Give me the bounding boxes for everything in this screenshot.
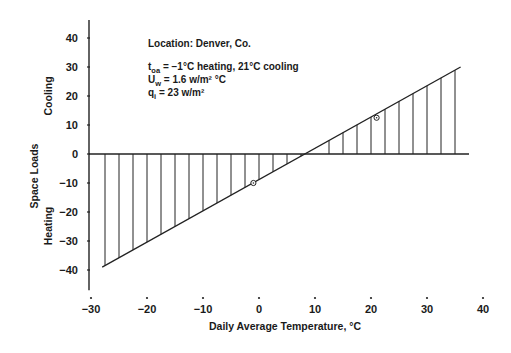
space-load-chart: 403020100−10−20−30−40 −30−20−10010203040… [0,0,511,353]
x-axis-ticks: −30−20−10010203040 [82,297,489,315]
x-tick-dot [314,297,316,299]
y-axis-label: Space Loads [28,143,40,208]
y-axis-ticks: 403020100−10−20−30−40 [59,32,90,276]
x-tick-label: −20 [138,303,157,315]
x-tick-dot [426,297,428,299]
x-tick-label: 40 [477,303,489,315]
qi-note: qi = 23 w/m² [148,87,205,101]
y-tick-label: −10 [59,177,78,189]
y-tick-label: −40 [59,264,78,276]
annotation-block: Location: Denver, Co. toa = −1°C heating… [148,38,299,101]
x-tick-label: 30 [421,303,433,315]
balance-point-dot [376,117,378,119]
y-tick-label: −20 [59,206,78,218]
location-note: Location: Denver, Co. [148,38,251,49]
y-tick-label: −30 [59,235,78,247]
x-tick-dot [202,297,204,299]
x-tick-label: −10 [194,303,213,315]
y-tick-label: 10 [66,119,78,131]
y-tick-label: 30 [66,61,78,73]
y-region-label-heating: Heating [42,207,54,246]
y-tick-label: 20 [66,90,78,102]
x-tick-label: −30 [82,303,101,315]
x-tick-dot [482,297,484,299]
x-tick-dot [258,297,260,299]
x-axis-label: Daily Average Temperature, °C [209,320,361,332]
balance-point-dot [253,182,255,184]
x-tick-label: 10 [309,303,321,315]
toa-note: toa = −1°C heating, 21°C cooling [148,61,299,75]
x-tick-label: 20 [365,303,377,315]
x-tick-label: 0 [256,303,262,315]
y-tick-label: 40 [66,32,78,44]
uw-note: Uw = 1.6 w/m² °C [148,74,226,88]
y-tick-label: 0 [72,148,78,160]
x-tick-dot [146,297,148,299]
y-region-label-cooling: Cooling [42,76,54,115]
x-tick-dot [90,297,92,299]
x-tick-dot [370,297,372,299]
